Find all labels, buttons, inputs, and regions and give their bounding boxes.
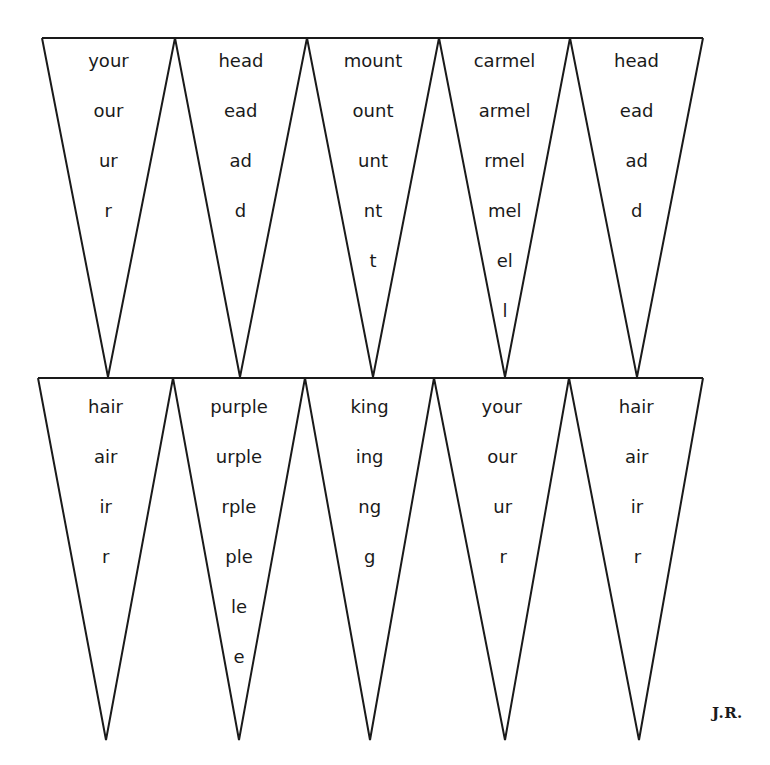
author-signature: J.R.	[712, 704, 743, 722]
pennant-word: armel	[479, 102, 531, 120]
pennant-word: your	[482, 398, 522, 416]
pennant-word: rmel	[484, 152, 525, 170]
pennant-word: urple	[216, 448, 262, 466]
pennant-word: ead	[224, 102, 258, 120]
pennant-word: mel	[488, 202, 522, 220]
pennant-word: r	[500, 548, 507, 566]
pennant-word: mount	[344, 52, 402, 70]
pennant-word: head	[614, 52, 659, 70]
pennant-word: hair	[619, 398, 654, 416]
pennant-word: purple	[210, 398, 268, 416]
pennant-word: ple	[225, 548, 253, 566]
pennant-word: ead	[620, 102, 654, 120]
pennant-word: t	[369, 252, 376, 270]
pennant-word: carmel	[474, 52, 536, 70]
pennant-word: r	[102, 548, 109, 566]
pennant-word: ir	[99, 498, 111, 516]
pennant-word: air	[625, 448, 648, 466]
pennant-word: our	[487, 448, 517, 466]
pennant-word: ir	[631, 498, 643, 516]
pennant-word: ng	[358, 498, 381, 516]
pennant-word: le	[231, 598, 247, 616]
pennant-word: e	[233, 648, 244, 666]
pennant-word: l	[502, 302, 507, 320]
pennant-word: king	[350, 398, 388, 416]
pennant-word: d	[631, 202, 642, 220]
pennant-word: unt	[358, 152, 388, 170]
pennant-word: rple	[222, 498, 257, 516]
pennant-word: nt	[364, 202, 382, 220]
pennant-word: ad	[229, 152, 251, 170]
pennant-word: ount	[353, 102, 394, 120]
pennant-word: d	[235, 202, 246, 220]
pennant-word: air	[94, 448, 117, 466]
pennant-word: ur	[99, 152, 118, 170]
pennant-word: head	[218, 52, 263, 70]
pennant-word-worksheet: youroururrheadeadaddmountountuntnttcarme…	[0, 0, 770, 765]
pennant-word: ing	[356, 448, 384, 466]
pennant-word: ad	[625, 152, 647, 170]
pennant-word: r	[634, 548, 641, 566]
pennant-word: r	[105, 202, 112, 220]
pennant-word: hair	[88, 398, 123, 416]
pennant-word: el	[497, 252, 513, 270]
pennant-word: our	[93, 102, 123, 120]
pennant-word: g	[364, 548, 375, 566]
pennant-word: your	[88, 52, 128, 70]
pennant-word: ur	[493, 498, 512, 516]
